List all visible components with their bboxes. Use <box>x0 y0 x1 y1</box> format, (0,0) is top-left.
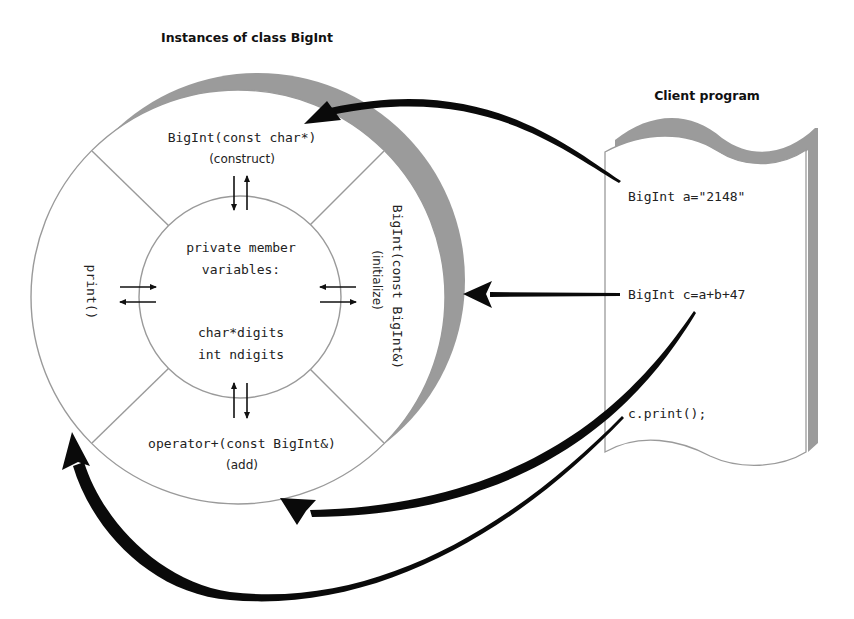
member-ndigits: int ndigits <box>198 347 284 362</box>
client-program-title: Client program <box>654 88 760 103</box>
member-digits: char*digits <box>198 325 284 340</box>
arrow-initialize-head-icon <box>463 281 492 308</box>
method-add-purpose: (add) <box>226 458 258 472</box>
class-diagram-title: Instances of class BigInt <box>161 30 333 45</box>
bigint-diagram: Instances of class BigInt private member… <box>0 0 854 619</box>
private-members-circle <box>139 196 341 398</box>
client-line-1: BigInt a="2148" <box>628 189 745 204</box>
arrow-initialize-shaft <box>490 292 620 297</box>
method-add-signature: operator+(const BigInt&) <box>148 436 336 451</box>
client-line-2: BigInt c=a+b+47 <box>628 287 745 302</box>
client-line-3: c.print(); <box>628 406 706 421</box>
method-construct-purpose: (construct) <box>209 152 275 166</box>
method-construct-signature: BigInt(const char*) <box>168 130 317 145</box>
private-members-heading-2: variables: <box>202 262 280 277</box>
method-initialize-purpose: (initialize) <box>370 250 384 309</box>
method-print-signature: print() <box>84 265 99 320</box>
method-print: print() <box>84 265 99 320</box>
method-initialize-signature: BigInt(const BigInt&) <box>390 205 405 369</box>
private-members-heading: private member <box>186 240 296 255</box>
